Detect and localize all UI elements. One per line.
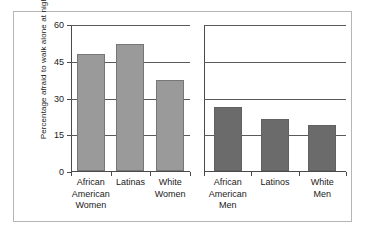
x-tick-women-2 bbox=[150, 172, 151, 176]
bar-slot-african-american-women bbox=[71, 25, 111, 171]
x-label-african-american-men: African American Men bbox=[204, 177, 251, 212]
bar-slot-white-women bbox=[150, 25, 190, 171]
x-tick-women-1 bbox=[111, 172, 112, 176]
x-label-african-american-women: African American Women bbox=[71, 177, 111, 212]
x-tick-men-2 bbox=[299, 172, 300, 176]
bar-group-women bbox=[71, 25, 190, 171]
bar-latinas[interactable] bbox=[116, 44, 144, 171]
bar-african-american-men[interactable] bbox=[214, 107, 242, 171]
bar-white-men[interactable] bbox=[308, 125, 336, 171]
y-tick-label-15: 15 bbox=[44, 130, 64, 140]
x-tick-men-end bbox=[346, 172, 347, 176]
y-axis-tick-labels: 0 15 30 45 60 bbox=[42, 12, 64, 223]
bar-group-men bbox=[204, 25, 346, 171]
bar-slot-african-american-men bbox=[204, 25, 251, 171]
x-tick-women-start bbox=[71, 172, 72, 176]
x-label-latinos: Latinos bbox=[251, 177, 298, 189]
bar-african-american-women[interactable] bbox=[77, 54, 105, 171]
bar-latinos[interactable] bbox=[261, 119, 289, 171]
x-tick-women-end bbox=[190, 172, 191, 176]
x-axis-line-women bbox=[71, 171, 190, 172]
plot-panel-women bbox=[71, 25, 190, 172]
bar-slot-latinas bbox=[111, 25, 151, 171]
plot-panel-men bbox=[204, 25, 346, 172]
x-axis-line-men bbox=[204, 171, 346, 172]
y-tick-label-45: 45 bbox=[44, 57, 64, 67]
x-label-latinas: Latinas bbox=[111, 177, 151, 189]
y-tick-label-0: 0 bbox=[44, 167, 64, 177]
x-label-white-men: White Men bbox=[299, 177, 346, 200]
y-tick-label-60: 60 bbox=[44, 20, 64, 30]
bar-white-women[interactable] bbox=[156, 80, 184, 171]
x-label-white-women: White Women bbox=[150, 177, 190, 200]
bar-slot-white-men bbox=[299, 25, 346, 171]
chart-figure: Percentage afraid to walk alone at night… bbox=[13, 11, 352, 222]
bar-slot-latinos bbox=[251, 25, 298, 171]
x-tick-men-start bbox=[204, 172, 205, 176]
y-tick-label-30: 30 bbox=[44, 94, 64, 104]
x-tick-men-1 bbox=[251, 172, 252, 176]
